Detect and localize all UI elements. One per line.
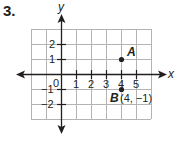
point-b-label: B (110, 91, 119, 105)
point-b-coordinates: (4, −1) (120, 92, 152, 104)
y-tick-1: 1 (49, 53, 55, 65)
x-tick-3: 3 (103, 78, 109, 90)
origin-label: 0 (53, 77, 59, 89)
y-tick-neg2: −2 (41, 98, 54, 110)
coordinate-plane: y x 0 1 2 3 4 5 2 1 −1 −2 A B (4, −1) (0, 0, 177, 143)
x-tick-1: 1 (73, 78, 79, 90)
y-tick-2: 2 (49, 38, 55, 50)
x-axis-label: x (167, 67, 175, 81)
y-tick-neg1: −1 (41, 83, 54, 95)
x-tick-2: 2 (88, 78, 94, 90)
y-axis-label: y (57, 0, 65, 14)
point-a-label: A (126, 45, 136, 59)
point-a-dot (119, 57, 124, 62)
x-tick-5: 5 (133, 78, 139, 90)
